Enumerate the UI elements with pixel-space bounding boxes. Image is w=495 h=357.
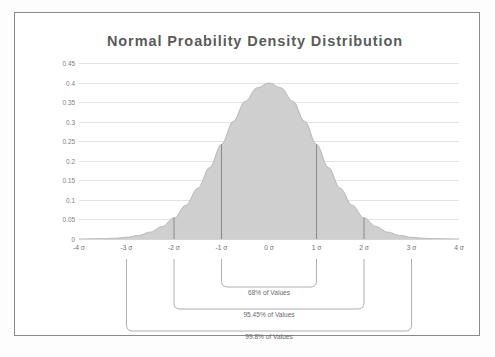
bracket-label: 99.8% of Values (245, 333, 293, 340)
gridline (79, 239, 459, 240)
y-axis-tick-label: 0.4 (41, 79, 75, 86)
y-axis-tick-label: 0.05 (41, 216, 75, 223)
x-axis-labels: -4 σ-3 σ-2 σ-1 σ0 σ1 σ2 σ3 σ4 σ (79, 241, 459, 257)
y-axis-labels: 0.450.40.350.30.250.20.150.10.050 (41, 63, 75, 239)
plot-area: 0.450.40.350.30.250.20.150.10.050 -4 σ-3… (79, 63, 459, 239)
x-axis-tick-label: 1 σ (312, 244, 322, 251)
figure-frame: Normal Proability Density Distribution 0… (14, 12, 480, 336)
x-axis-tick-label: -4 σ (73, 244, 85, 251)
x-axis-tick-label: 2 σ (359, 244, 369, 251)
bracket-path (174, 259, 364, 309)
normal-distribution-curve (79, 63, 459, 239)
y-axis-tick-label: 0.15 (41, 177, 75, 184)
x-axis-tick-label: 3 σ (407, 244, 417, 251)
bracket-annotations: 68% of Values95.45% of Values99.8% of Va… (15, 259, 481, 337)
bracket-label: 95.45% of Values (243, 311, 294, 318)
y-axis-tick-label: 0 (41, 236, 75, 243)
x-axis-tick-label: -3 σ (121, 244, 133, 251)
y-axis-tick-label: 0.25 (41, 138, 75, 145)
y-axis-tick-label: 0.3 (41, 118, 75, 125)
bracket-lines (15, 259, 481, 337)
curve-area-fill (79, 83, 459, 239)
y-axis-tick-label: 0.2 (41, 157, 75, 164)
x-axis-tick-label: -1 σ (216, 244, 228, 251)
chart-title: Normal Proability Density Distribution (41, 33, 469, 49)
x-axis-tick-label: 0 σ (264, 244, 274, 251)
bracket-path (222, 259, 317, 287)
x-axis-tick-label: 4 σ (454, 244, 464, 251)
y-axis-tick-label: 0.45 (41, 60, 75, 67)
y-axis-tick-label: 0.1 (41, 196, 75, 203)
chart-card: Normal Proability Density Distribution 0… (41, 19, 469, 259)
y-axis-tick-label: 0.35 (41, 99, 75, 106)
x-axis-tick-label: -2 σ (168, 244, 180, 251)
bracket-label: 68% of Values (248, 289, 290, 296)
